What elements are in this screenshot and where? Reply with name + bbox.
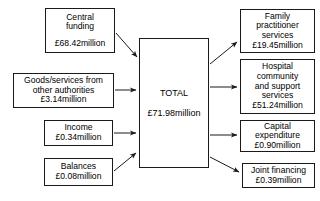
arrow-central-funding-to-total xyxy=(116,33,137,57)
funding-flow-diagram: Central funding £68.42million Goods/serv… xyxy=(0,0,320,201)
node-family-practitioner: Family practitioner services £19.45milli… xyxy=(240,9,315,53)
node-income-amount: £0.34million xyxy=(56,133,102,143)
node-hospital-community-amount: £51.24million xyxy=(252,101,303,111)
node-total-amount: £71.98million xyxy=(147,108,200,118)
node-balances-amount: £0.08million xyxy=(56,172,102,182)
node-family-practitioner-amount: £19.45million xyxy=(252,41,303,51)
node-joint-financing: Joint financing £0.39million xyxy=(242,163,315,188)
node-central-funding-amount: £68.42million xyxy=(55,39,106,49)
node-goods-services: Goods/services from other authorities £3… xyxy=(13,73,114,108)
node-balances: Balances £0.08million xyxy=(44,158,113,186)
arrow-total-to-joint-financing xyxy=(210,157,239,172)
node-central-funding-line-2: funding xyxy=(66,22,94,32)
node-total: TOTAL £71.98million xyxy=(139,38,209,168)
node-hospital-community: Hospital community and support services … xyxy=(240,59,315,114)
arrow-total-to-family-practitioner xyxy=(210,42,237,64)
node-joint-financing-amount: £0.39million xyxy=(256,176,302,186)
node-capital-expenditure: Capital expenditure £0.90million xyxy=(240,120,315,152)
arrow-balances-to-total xyxy=(114,153,136,171)
node-total-label: TOTAL xyxy=(160,88,188,98)
node-central-funding: Central funding £68.42million xyxy=(45,8,115,53)
node-income: Income £0.34million xyxy=(44,120,113,146)
node-capital-expenditure-amount: £0.90million xyxy=(255,141,301,151)
node-goods-services-amount: £3.14million xyxy=(41,95,87,105)
